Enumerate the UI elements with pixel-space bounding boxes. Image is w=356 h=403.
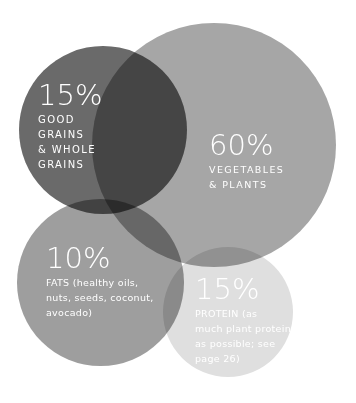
fats-desc-line: nuts, seeds, coconut,: [46, 290, 154, 305]
vegetables-desc-line: VEGETABLES: [209, 162, 284, 177]
fats-desc-line: avocado): [46, 305, 154, 320]
fats-percent: 10%: [46, 243, 154, 273]
grains-desc-line: GRAINS: [38, 127, 102, 142]
protein-desc-line: PROTEIN (as: [195, 306, 291, 321]
protein-desc-line: page 26): [195, 351, 291, 366]
grains-label: 15% GOOD GRAINS & WHOLE GRAINS: [38, 80, 102, 172]
protein-desc-line: as possible; see: [195, 336, 291, 351]
protein-label: 15% PROTEIN (as much plant protein as po…: [195, 274, 291, 366]
fats-label: 10% FATS (healthy oils, nuts, seeds, coc…: [46, 243, 154, 320]
grains-desc-line: & WHOLE: [38, 142, 102, 157]
diet-proportion-diagram: 15% GOOD GRAINS & WHOLE GRAINS 60% VEGET…: [0, 0, 356, 403]
vegetables-percent: 60%: [209, 130, 284, 160]
grains-desc-line: GOOD: [38, 112, 102, 127]
vegetables-label: 60% VEGETABLES & PLANTS: [209, 130, 284, 192]
fats-desc-line: FATS (healthy oils,: [46, 275, 154, 290]
vegetables-desc-line: & PLANTS: [209, 177, 284, 192]
grains-desc-line: GRAINS: [38, 157, 102, 172]
protein-percent: 15%: [195, 274, 291, 304]
grains-percent: 15%: [38, 80, 102, 110]
protein-desc-line: much plant protein: [195, 321, 291, 336]
